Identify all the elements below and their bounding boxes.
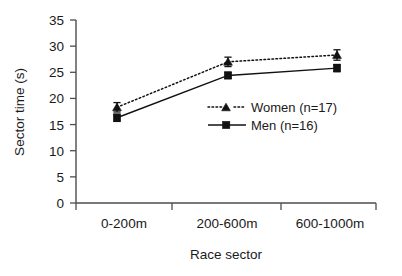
legend-label-women: Women (n=17) [251,100,337,115]
legend-label-men: Men (n=16) [251,118,318,133]
x-tick-label-2: 600-1000m [296,216,364,231]
y-tick-label-25: 25 [49,65,64,80]
x-tick-label-0: 0-200m [101,216,147,231]
y-tick-label-20: 20 [49,91,64,106]
y-tick-label-15: 15 [49,118,64,133]
chart-figure: 35 30 25 20 15 10 5 0 Sector time (s) 0-… [0,0,402,276]
x-axis-title: Race sector [190,247,263,262]
marker-men-0 [113,114,120,121]
marker-men-2 [333,65,340,72]
y-tick-label-30: 30 [49,39,64,54]
x-tick-label-1: 200-600m [197,216,258,231]
y-tick-label-10: 10 [49,144,64,159]
marker-men-1 [224,72,231,79]
chart-canvas: 35 30 25 20 15 10 5 0 Sector time (s) 0-… [0,0,402,276]
y-tick-label-0: 0 [56,196,64,211]
legend-marker-men-square-icon [223,121,230,128]
y-tick-label-35: 35 [49,13,64,28]
y-axis-title: Sector time (s) [12,68,27,156]
y-tick-label-5: 5 [56,170,64,185]
